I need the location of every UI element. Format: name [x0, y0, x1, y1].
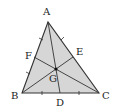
centroid-point: [54, 67, 57, 70]
label-c: C: [102, 90, 110, 101]
label-f: F: [25, 50, 32, 61]
label-g: G: [49, 73, 57, 84]
label-b: B: [11, 90, 18, 101]
label-e: E: [76, 46, 83, 57]
label-a: A: [42, 6, 51, 17]
label-d: D: [56, 97, 64, 108]
triangle-diagram: A B C D E F G: [0, 0, 116, 108]
triangle-abc: [22, 22, 99, 93]
